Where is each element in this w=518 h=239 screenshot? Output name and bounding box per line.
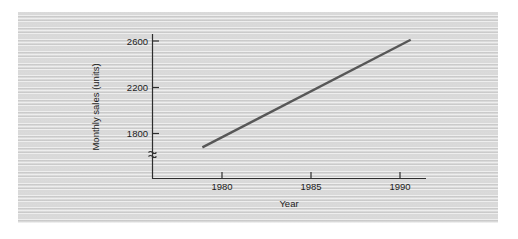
y-axis-title: Monthly sales (units) (90, 63, 101, 150)
y-tick-label-1800: 1800 (127, 128, 148, 139)
x-tick-label-1990: 1990 (389, 181, 410, 192)
y-tick-label-2600: 2600 (127, 36, 148, 47)
data-line-monthly-sales (202, 40, 410, 148)
y-tick-label-2200: 2200 (127, 82, 148, 93)
x-tick-label-1985: 1985 (300, 181, 321, 192)
x-axis-title: Year (279, 198, 298, 209)
chart-screenshot: 2600 2200 1800 1980 1985 1990 Year Month… (0, 0, 518, 239)
x-tick-label-1980: 1980 (211, 181, 232, 192)
line-chart: 2600 2200 1800 1980 1985 1990 Year Month… (0, 0, 518, 239)
